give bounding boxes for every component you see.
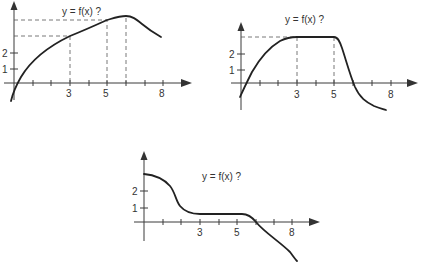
x-tick-label-5: 5	[103, 88, 109, 99]
x-tick-label-3: 3	[66, 88, 72, 99]
function-curve	[240, 37, 386, 110]
y-axis-arrow-icon	[141, 151, 148, 160]
graph-3: 3 5 8 1 2 y = f(x) ?	[132, 151, 320, 261]
y-tick-label-2: 2	[2, 48, 8, 59]
x-tick-label-5: 5	[234, 227, 240, 238]
function-curve	[11, 16, 161, 101]
figure-canvas: 3 5 8 1 2 y = f(x) ?	[0, 0, 422, 268]
y-tick-label-2: 2	[229, 49, 235, 60]
chart-title: y = f(x) ?	[285, 14, 325, 25]
chart-title: y = f(x) ?	[202, 171, 242, 182]
chart-title: y = f(x) ?	[62, 6, 102, 17]
y-tick-label-2: 2	[132, 186, 138, 197]
x-tick-label-8: 8	[388, 89, 394, 100]
function-curve	[144, 174, 297, 261]
x-tick-label-5: 5	[331, 89, 337, 100]
x-tick-label-8: 8	[159, 88, 165, 99]
y-tick-label-1: 1	[2, 64, 8, 75]
y-tick-label-1: 1	[229, 65, 235, 76]
dashed-guides	[14, 18, 126, 83]
x-axis-arrow-icon	[309, 218, 320, 226]
dashed-guides	[241, 37, 334, 83]
y-axis-arrow-icon	[238, 22, 245, 31]
y-axis-arrow-icon	[11, 1, 18, 10]
x-tick-label-8: 8	[289, 227, 295, 238]
x-tick-label-3: 3	[294, 89, 300, 100]
y-tick-label-1: 1	[132, 203, 138, 214]
x-tick-label-3: 3	[197, 227, 203, 238]
graph-1: 3 5 8 1 2 y = f(x) ?	[2, 1, 192, 101]
x-axis-arrow-icon	[407, 79, 418, 87]
graph-2: 3 5 8 1 2 y = f(x) ?	[229, 14, 418, 110]
x-axis-arrow-icon	[181, 79, 192, 87]
